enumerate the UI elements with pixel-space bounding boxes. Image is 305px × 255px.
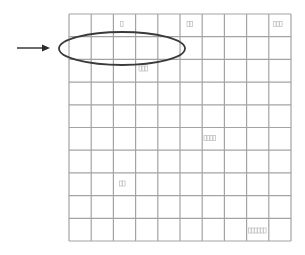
glyph-box — [123, 181, 126, 186]
glyph-box — [142, 66, 145, 71]
arrowhead-icon — [42, 45, 50, 52]
arrow-icon — [17, 45, 50, 52]
glyph-box — [204, 136, 207, 141]
glyph-box — [139, 66, 142, 71]
glyph-box — [187, 22, 190, 27]
glyph-box — [252, 228, 255, 233]
glyph-box — [264, 228, 267, 233]
glyph-box — [249, 228, 252, 233]
cell-label: □□ — [120, 181, 126, 186]
glyph-box — [213, 136, 216, 141]
cell-label: □□□ — [274, 22, 283, 27]
grid-diagram: □□□□□□□□□□□□□□□□□□□□□ — [0, 0, 305, 255]
cell-label: □□□□□□ — [249, 228, 267, 233]
cell-label: □□□□ — [204, 136, 216, 141]
glyph-box — [207, 136, 210, 141]
glyph-box — [274, 22, 277, 27]
glyph-box — [255, 228, 258, 233]
glyph-box — [210, 136, 213, 141]
glyph-box — [261, 228, 264, 233]
glyph-box — [190, 22, 193, 27]
glyph-box — [121, 22, 124, 27]
cell-label: □ — [121, 22, 124, 27]
glyph-box — [258, 228, 261, 233]
glyph-box — [145, 66, 148, 71]
cell-label: □□ — [187, 22, 193, 27]
grid — [69, 14, 291, 241]
cell-label: □□□ — [139, 66, 148, 71]
glyph-box — [120, 181, 123, 186]
glyph-box — [277, 22, 280, 27]
glyph-box — [280, 22, 283, 27]
